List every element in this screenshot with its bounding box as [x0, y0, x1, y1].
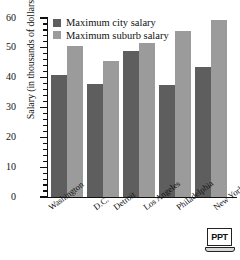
bar [139, 43, 155, 197]
bar [51, 75, 67, 197]
bar [175, 31, 191, 197]
bar [211, 20, 227, 198]
bar-chart: Salary (in thousands of dollars) 0102030… [0, 0, 240, 260]
bar [67, 46, 83, 197]
y-tick-label: 40 [0, 72, 16, 82]
y-tick-label: 60 [0, 13, 16, 23]
chart-legend: Maximum city salaryMaximum suburb salary [53, 17, 203, 42]
y-tick-label: 0 [0, 192, 16, 202]
ppt-screen: PPT [207, 228, 232, 246]
bar [87, 84, 103, 197]
legend-label: Maximum suburb salary [66, 30, 169, 41]
y-tick-label: 10 [0, 162, 16, 172]
ppt-badge-label: PPT [211, 232, 228, 242]
ppt-badge-icon[interactable]: PPT [205, 228, 235, 255]
y-tick-label: 50 [0, 42, 16, 52]
bar [103, 61, 119, 197]
legend-item: Maximum suburb salary [53, 30, 203, 42]
y-tick-label: 20 [0, 132, 16, 142]
y-axis-ticks: 0102030405060 [0, 0, 40, 260]
legend-swatch-icon [53, 19, 61, 27]
y-tick-label: 30 [0, 102, 16, 112]
legend-item: Maximum city salary [53, 17, 203, 29]
bar-series-container [47, 18, 237, 197]
legend-swatch-icon [53, 31, 61, 39]
bar [123, 51, 139, 197]
legend-label: Maximum city salary [66, 17, 156, 28]
ppt-base [205, 247, 235, 252]
